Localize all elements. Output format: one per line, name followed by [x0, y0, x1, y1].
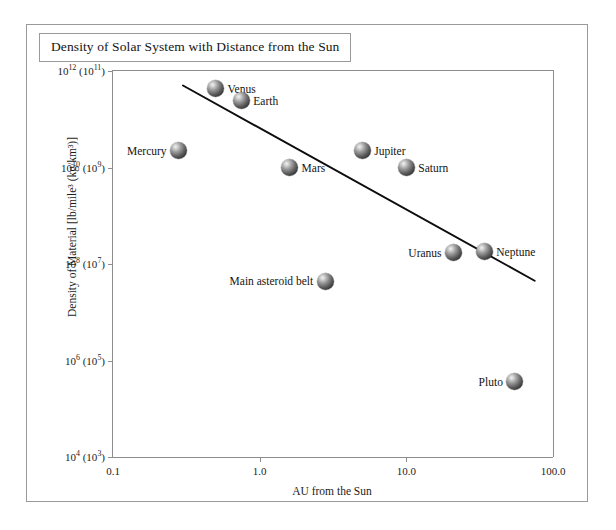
x-axis-tick-label: 1.0 — [253, 465, 267, 477]
planet-label-mercury: Mercury — [127, 145, 167, 157]
planet-label-saturn: Saturn — [418, 162, 448, 174]
figure-frame: Density of Solar System with Distance fr… — [26, 24, 588, 502]
y-axis-tick — [108, 361, 113, 362]
x-axis-tick-label: 10.0 — [397, 465, 416, 477]
planet-marker-venus[interactable] — [207, 80, 224, 97]
chart-title: Density of Solar System with Distance fr… — [39, 33, 351, 62]
y-axis-tick-label: 1012 (1011) — [57, 65, 105, 77]
y-axis-title: Density of Material [lb/mile³ (kg/km³)] — [66, 34, 78, 420]
x-axis-tick — [406, 457, 407, 462]
planet-label-neptune: Neptune — [496, 246, 535, 258]
y-axis-tick — [108, 457, 113, 458]
planet-label-main-asteroid-belt: Main asteroid belt — [230, 275, 314, 287]
x-axis-tick-label: 0.1 — [106, 465, 120, 477]
planet-marker-main-asteroid-belt[interactable] — [317, 273, 334, 290]
planet-label-mars: Mars — [302, 162, 326, 174]
x-axis-tick-label: 100.0 — [541, 465, 566, 477]
planet-marker-jupiter[interactable] — [354, 142, 371, 159]
y-axis-tick — [108, 264, 113, 265]
planet-marker-saturn[interactable] — [398, 159, 415, 176]
y-axis-tick — [108, 71, 113, 72]
y-axis-tick — [108, 168, 113, 169]
trend-line — [113, 71, 553, 457]
x-axis-tick — [260, 457, 261, 462]
planet-label-uranus: Uranus — [408, 247, 441, 259]
planet-marker-pluto[interactable] — [506, 373, 523, 390]
planet-marker-uranus[interactable] — [445, 244, 462, 261]
planet-marker-mercury[interactable] — [170, 142, 187, 159]
y-axis-tick-label: 104 (103) — [65, 451, 105, 463]
planet-marker-mars[interactable] — [281, 159, 298, 176]
planet-label-pluto: Pluto — [479, 376, 503, 388]
plot-area: 1012 (1011)1010 (109)108 (107)106 (105)1… — [112, 71, 553, 458]
x-axis-title: AU from the Sun — [112, 485, 552, 497]
planet-marker-earth[interactable] — [233, 92, 250, 109]
planet-marker-neptune[interactable] — [476, 243, 493, 260]
planet-label-jupiter: Jupiter — [374, 145, 405, 157]
planet-label-earth: Earth — [253, 95, 278, 107]
